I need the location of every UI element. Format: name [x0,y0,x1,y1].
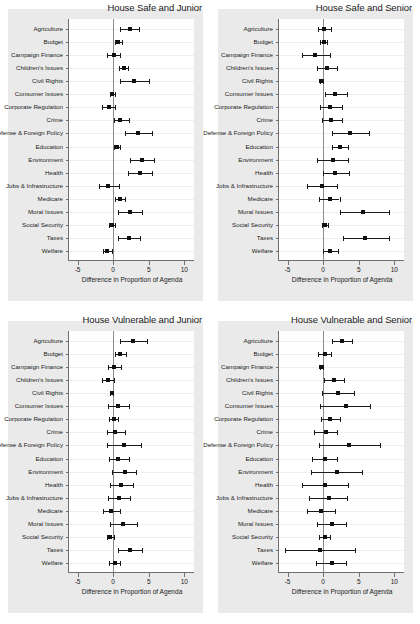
ci-cap-high [337,457,338,462]
ci-cap-high [342,105,343,110]
x-axis-title: Difference in Proportion of Agenda [265,276,419,283]
estimate-row [279,445,404,446]
estimate-row [69,511,194,512]
x-axis-tick-label: 5 [357,266,361,273]
y-axis-tick [276,251,279,252]
y-axis-label: Children's Issues [16,65,63,71]
y-axis-label: Civil Rights [242,390,273,396]
y-axis-label: Jobs & Infrastructure [216,182,273,188]
y-axis-label: Environment [238,468,273,474]
y-axis-tick [66,472,69,473]
x-axis-tick [149,261,150,265]
ci-cap-high [129,457,130,462]
y-axis-tick [66,94,69,95]
y-axis-tick [276,341,279,342]
ci-cap-high [115,223,116,228]
estimate-point [110,391,114,395]
ci-cap-high [120,509,121,514]
y-axis-tick [66,212,69,213]
ci-cap-low [319,535,320,540]
y-axis-label: Welfare [252,247,273,253]
y-axis-tick [66,354,69,355]
estimate-point [118,197,122,201]
estimate-point [348,131,352,135]
y-axis-tick [276,225,279,226]
ci-cap-low [120,79,121,84]
estimate-point [324,430,328,434]
estimate-row [279,133,404,134]
y-axis-tick [276,94,279,95]
estimate-row [279,55,404,56]
y-axis-label: Consumer Issues [15,403,63,409]
y-axis-tick [276,354,279,355]
y-axis-label: Budget [253,39,273,45]
y-axis-label: Social Security [22,221,63,227]
ci-cap-high [133,483,134,488]
estimate-point [113,430,117,434]
ci-cap-high [337,184,338,189]
estimate-row [69,341,194,342]
estimate-point [322,40,326,44]
estimate-row [69,238,194,239]
y-axis-tick [66,68,69,69]
y-axis-label: Corporate Regulation [4,104,63,110]
estimate-point [319,509,323,513]
y-axis-label: Crime [257,429,274,435]
ci-cap-low [130,158,131,163]
estimate-point [327,496,331,500]
y-axis-tick [66,485,69,486]
ci-cap-low [110,522,111,527]
estimate-point [122,443,126,447]
estimate-row [69,55,194,56]
x-axis-tick-label: 10 [181,578,188,585]
ci-cap-low [322,118,323,123]
panel-title: House Safe and Junior [107,2,202,13]
y-axis-label: Budget [253,351,273,357]
ci-cap-low [285,548,286,553]
estimate-row [69,186,194,187]
ci-cap-low [110,483,111,488]
estimate-point [116,457,120,461]
y-axis-tick [276,537,279,538]
estimate-point [330,522,334,526]
estimate-point [110,92,114,96]
ci-cap-high [122,40,123,45]
x-axis-tick-label: 10 [391,578,398,585]
estimate-row [69,472,194,473]
y-axis-tick [66,120,69,121]
ci-cap-high [347,496,348,501]
estimate-point [106,378,110,382]
estimate-point [323,223,327,227]
ci-cap-high [121,365,122,370]
ci-cap-low [109,457,110,462]
y-axis-label: Medicare [248,507,273,513]
ci-cap-high [141,443,142,448]
estimate-point [323,352,327,356]
y-axis-label: Campaign Finance [221,364,273,370]
estimate-point [128,27,132,31]
y-axis-label: Corporate Regulation [4,416,63,422]
y-axis-tick [276,212,279,213]
estimate-row [279,498,404,499]
estimate-point [128,548,132,552]
estimate-point [330,561,334,565]
ci-cap-low [307,184,308,189]
ci-cap-low [317,158,318,163]
y-axis-tick [66,55,69,56]
estimate-point [117,496,121,500]
ci-cap-high [152,171,153,176]
y-axis-tick [66,406,69,407]
y-axis-label: Consumer Issues [15,91,63,97]
ci-cap-high [120,53,121,58]
estimate-row [279,238,404,239]
estimate-point [106,184,110,188]
x-axis-tick [394,573,395,577]
estimate-point [116,40,120,44]
estimate-row [69,42,194,43]
estimate-point [344,404,348,408]
y-axis-tick [66,29,69,30]
estimate-row [69,406,194,407]
ci-cap-low [317,522,318,527]
estimate-row [279,225,404,226]
y-axis-tick [276,485,279,486]
